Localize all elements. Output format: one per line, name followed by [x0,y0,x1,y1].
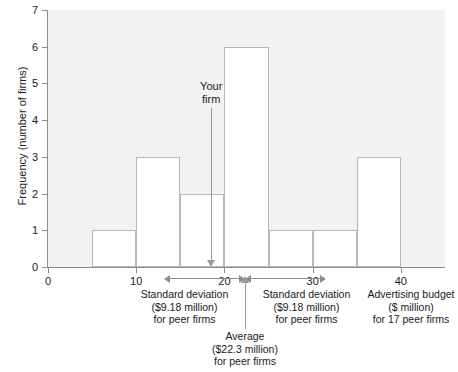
y-tick-label: 7 [16,5,38,16]
std-dev-left-line2: ($9.18 million) [127,301,242,314]
x-axis-caption-line1: Advertising budget [364,288,458,301]
average-caption: Average ($22.3 million) for peer firms [186,330,304,368]
x-tick-label: 0 [33,275,63,287]
your-firm-label-line1: Your [176,80,246,93]
std-dev-left-line1: Standard deviation [127,288,242,301]
std-dev-right-line2: ($9.18 million) [249,301,364,314]
y-tick-mark [42,83,48,84]
histogram-bar [180,194,224,267]
std-dev-left-caption: Standard deviation ($9.18 million) for p… [127,288,242,326]
x-axis-line [47,267,445,268]
histogram-bar [357,157,401,267]
histogram-figure: 01234567 Frequency (number of firms) 010… [0,0,458,372]
y-tick-mark [42,47,48,48]
arrow-head-left-icon [245,275,251,283]
std-dev-right-span-arrow [245,274,326,283]
arrow-head-left-icon [164,275,170,283]
std-dev-right-line1: Standard deviation [249,288,364,301]
std-dev-right-line3: for peer firms [249,313,364,326]
std-dev-right-caption: Standard deviation ($9.18 million) for p… [249,288,364,326]
y-tick-mark [42,194,48,195]
your-firm-arrow-stem [211,108,212,260]
y-axis-label: Frequency (number of firms) [16,26,28,246]
histogram-bar [136,157,180,267]
average-arrow-stem [245,283,246,329]
x-tick-mark [224,268,225,273]
histogram-bar [269,230,313,267]
std-dev-left-line3: for peer firms [127,313,242,326]
average-line3: for peer firms [186,355,304,368]
x-tick-mark [136,268,137,273]
y-tick-mark [42,10,48,11]
x-axis-caption-line3: for 17 peer firms [364,313,458,326]
y-tick-mark [42,157,48,158]
x-tick-mark [313,268,314,273]
your-firm-label-line2: firm [176,93,246,106]
average-line1: Average [186,330,304,343]
x-tick-label: 10 [121,275,151,287]
x-axis-caption-line2: ($ million) [364,301,458,314]
your-firm-annotation-label: Your firm [176,80,246,106]
y-tick-label: 0 [16,262,38,273]
histogram-bar [92,230,136,267]
down-arrow-icon [207,260,215,267]
arrow-head-right-icon [320,275,326,283]
x-axis-caption: Advertising budget ($ million) for 17 pe… [364,288,458,326]
span-line [168,278,241,279]
y-tick-mark [42,230,48,231]
y-tick-mark [42,120,48,121]
average-line2: ($22.3 million) [186,343,304,356]
span-line [249,278,322,279]
std-dev-left-span-arrow [164,274,245,283]
x-tick-mark [401,268,402,273]
x-tick-label: 40 [386,275,416,287]
x-tick-mark [48,268,49,273]
histogram-bar [313,230,357,267]
